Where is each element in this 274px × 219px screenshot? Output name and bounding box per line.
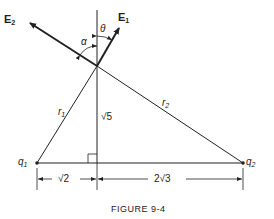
r2-line bbox=[97, 66, 243, 163]
r1-label: r1 bbox=[58, 107, 65, 118]
right-base-label: 2√3 bbox=[154, 174, 171, 184]
e2-label: E2 bbox=[4, 14, 15, 26]
right-angle-mark bbox=[88, 154, 97, 163]
e1-label: E1 bbox=[118, 12, 129, 24]
figure-caption: FIGURE 9-4 bbox=[111, 205, 166, 214]
r2-label: r2 bbox=[162, 98, 169, 109]
left-base-label: √2 bbox=[58, 174, 69, 184]
q1-label: q1 bbox=[18, 157, 27, 168]
r1-line bbox=[37, 66, 97, 163]
alpha-arc bbox=[80, 46, 97, 55]
height-label: √5 bbox=[101, 112, 112, 122]
theta-arc bbox=[97, 36, 112, 40]
diagram-canvas bbox=[0, 0, 274, 219]
theta-label: θ bbox=[100, 24, 105, 34]
q2-point bbox=[241, 161, 245, 165]
q1-point bbox=[35, 161, 39, 165]
q2-label: q2 bbox=[246, 157, 255, 168]
alpha-label: α bbox=[81, 37, 87, 47]
